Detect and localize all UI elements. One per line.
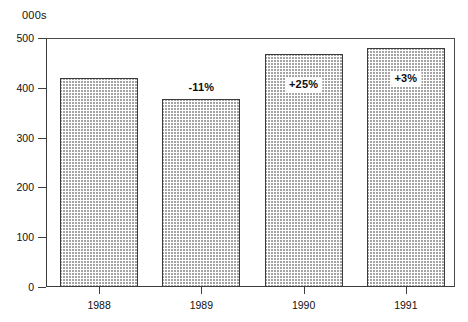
- bar-growth-annotation: +25%: [285, 77, 322, 92]
- y-axis-tick-label: 200: [4, 181, 34, 193]
- bar-growth-annotation: -11%: [188, 81, 214, 93]
- y-axis-tick-label: 100: [4, 231, 34, 243]
- x-axis-tick: [201, 287, 202, 294]
- x-axis-tick-label: 1991: [394, 299, 417, 311]
- y-axis-tick-label: 300: [4, 132, 34, 144]
- y-axis-tick: [38, 88, 46, 89]
- y-axis-tick-label: 500: [4, 32, 34, 44]
- x-axis-tick-label: 1988: [87, 299, 110, 311]
- x-axis-tick: [304, 287, 305, 294]
- bar[interactable]: [60, 78, 138, 287]
- y-axis-tick: [38, 237, 46, 238]
- bar[interactable]: [162, 99, 240, 287]
- y-axis-tick-label: 400: [4, 82, 34, 94]
- y-axis-tick: [38, 187, 46, 188]
- y-axis-unit-label: 000s: [22, 9, 47, 21]
- x-axis-tick: [99, 287, 100, 294]
- bar-chart: 000s 0100200300400500 1988198919901991 -…: [0, 0, 468, 322]
- x-axis-tick: [406, 287, 407, 294]
- y-axis-tick: [38, 38, 46, 39]
- y-axis-tick-label: 0: [4, 281, 34, 293]
- bar-growth-annotation: +3%: [390, 71, 421, 86]
- y-axis-tick: [38, 138, 46, 139]
- x-axis-tick-label: 1990: [292, 299, 315, 311]
- y-axis-tick: [38, 287, 46, 288]
- x-axis-tick-label: 1989: [190, 299, 213, 311]
